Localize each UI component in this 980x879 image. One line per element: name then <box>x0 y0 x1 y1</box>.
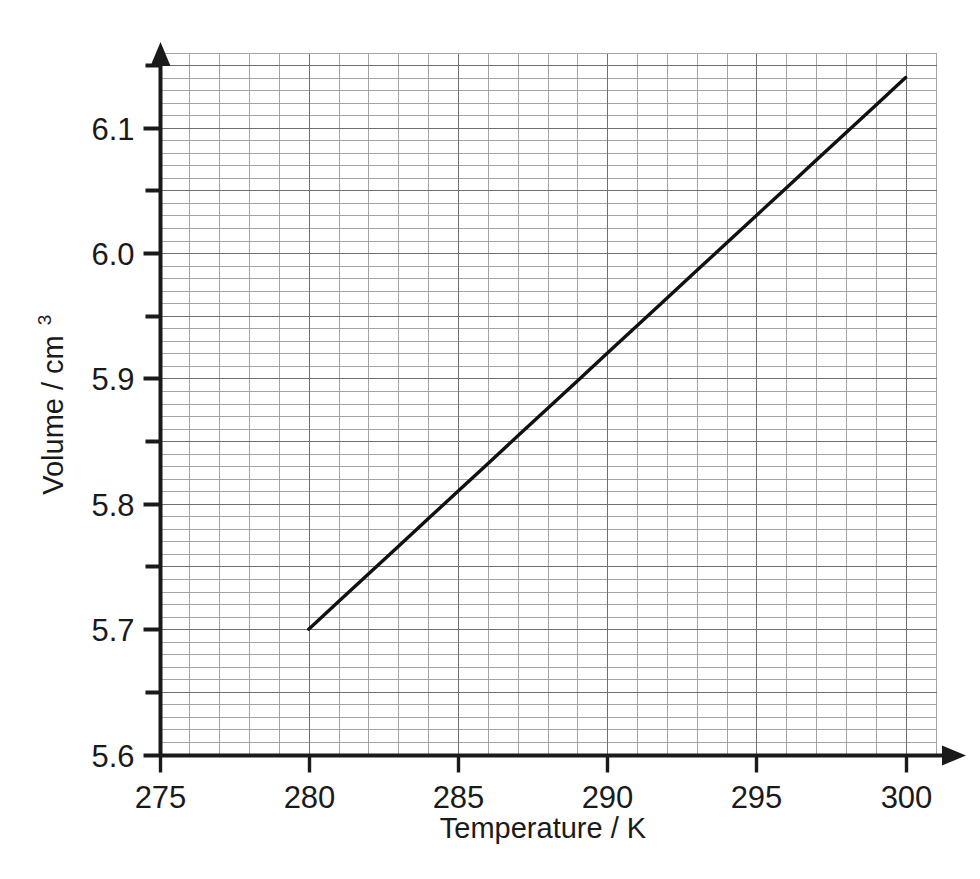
x-tick-label: 280 <box>284 780 336 815</box>
y-tick-label: 5.8 <box>91 488 134 523</box>
y-tick-label: 5.7 <box>91 613 134 648</box>
x-axis-title: Temperature / K <box>440 812 647 844</box>
x-tick-label: 275 <box>135 780 187 815</box>
y-axis-title-superscript: 3 <box>34 315 55 326</box>
y-tick-label: 5.6 <box>91 739 134 774</box>
y-tick-label: 5.9 <box>91 362 134 397</box>
y-axis-title-group: Volume / cm 3 <box>34 315 69 495</box>
volume-temperature-line-chart: 5.65.75.85.96.06.1 275280285290295300 Te… <box>0 0 980 879</box>
y-tick-label: 6.0 <box>91 237 134 272</box>
y-tick-label: 6.1 <box>91 112 134 147</box>
y-axis-title: Volume / cm <box>37 335 69 495</box>
x-tick-label: 300 <box>881 780 933 815</box>
x-tick-label: 290 <box>582 780 634 815</box>
x-tick-label: 295 <box>731 780 783 815</box>
chart-figure: 5.65.75.85.96.06.1 275280285290295300 Te… <box>0 0 980 879</box>
x-tick-label: 285 <box>433 780 485 815</box>
